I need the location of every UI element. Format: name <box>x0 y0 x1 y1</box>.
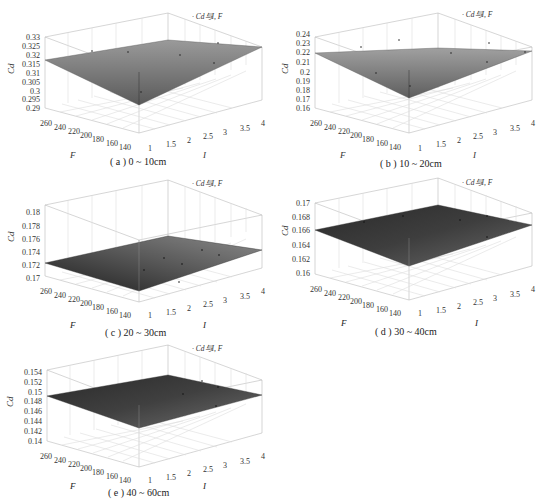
chart-panel-a: 0.33 0.325 0.32 0.315 0.31 0.305 0.3 0.2… <box>0 0 275 160</box>
x-axis-ticks-d: 1 1.5 2 2.5 3 3.5 4 <box>418 285 535 318</box>
z-axis-label-a: Cd <box>6 63 16 74</box>
surface-plot-e: 0.154 0.152 0.15 0.148 0.146 0.144 0.142… <box>0 335 275 485</box>
svg-text:200: 200 <box>80 131 92 140</box>
svg-text:200: 200 <box>350 297 362 306</box>
svg-text:3: 3 <box>493 128 497 137</box>
surface-plot-c: 0.18 0.178 0.176 0.174 0.172 0.17 Cd 260… <box>0 170 275 320</box>
svg-text:0.17: 0.17 <box>26 274 40 283</box>
svg-text:0.17: 0.17 <box>296 95 310 104</box>
svg-text:140: 140 <box>389 143 401 152</box>
surface-d <box>315 205 532 266</box>
svg-text:180: 180 <box>362 301 374 310</box>
svg-text:2.5: 2.5 <box>473 132 483 141</box>
chart-panel-e: 0.154 0.152 0.15 0.148 0.146 0.144 0.142… <box>0 335 275 485</box>
y-axis-label-c: F <box>70 320 76 330</box>
legend-a: · Cd与I, F <box>192 12 223 21</box>
svg-text:3.5: 3.5 <box>240 124 250 133</box>
svg-text:2.5: 2.5 <box>203 465 213 474</box>
svg-text:0.142: 0.142 <box>24 427 42 436</box>
x-axis-label-b: I <box>472 150 477 160</box>
svg-text:2: 2 <box>187 304 191 313</box>
z-axis-label-b: Cd <box>280 63 290 74</box>
svg-text:240: 240 <box>54 291 66 300</box>
legend-c: · Cd与I, F <box>192 179 223 188</box>
z-axis-label-c: Cd <box>6 231 16 242</box>
svg-text:0.305: 0.305 <box>22 78 40 87</box>
z-axis-label-d: Cd <box>280 225 290 236</box>
svg-text:0.172: 0.172 <box>22 261 40 270</box>
svg-text:220: 220 <box>68 295 80 304</box>
svg-text:0.18: 0.18 <box>26 208 40 217</box>
chart-panel-d: 0.17 0.168 0.166 0.164 0.162 0.16 Cd 260… <box>275 170 545 320</box>
svg-text:1.5: 1.5 <box>166 140 176 149</box>
svg-text:0.164: 0.164 <box>292 241 310 250</box>
svg-text:0.17: 0.17 <box>296 199 310 208</box>
x-axis-ticks-c: 1 1.5 2 2.5 3 3.5 4 <box>148 287 265 320</box>
svg-text:1: 1 <box>418 309 422 318</box>
svg-text:200: 200 <box>350 131 362 140</box>
svg-text:4: 4 <box>261 287 265 296</box>
svg-text:4: 4 <box>531 119 535 128</box>
svg-text:220: 220 <box>338 127 350 136</box>
caption-d: ( d ) 30 ~ 40cm <box>375 326 437 337</box>
x-axis-label-e: I <box>203 481 206 491</box>
chart-panel-c: 0.18 0.178 0.176 0.174 0.172 0.17 Cd 260… <box>0 170 275 320</box>
svg-text:2: 2 <box>457 302 461 311</box>
svg-text:1.5: 1.5 <box>436 140 446 149</box>
x-axis-label-c: I <box>203 320 206 330</box>
svg-text:0.21: 0.21 <box>296 58 310 67</box>
svg-text:180: 180 <box>92 303 104 312</box>
y-axis-ticks-c: 260 240 220 200 180 160 140 <box>40 287 131 320</box>
svg-text:0.152: 0.152 <box>24 378 42 387</box>
svg-text:0.174: 0.174 <box>22 248 40 257</box>
x-axis-ticks-e: 1 1.5 2 2.5 3 3.5 4 <box>148 452 265 485</box>
surface-plot-a: 0.33 0.325 0.32 0.315 0.31 0.305 0.3 0.2… <box>0 0 275 160</box>
svg-text:1.5: 1.5 <box>166 308 176 317</box>
svg-text:140: 140 <box>389 309 401 318</box>
svg-text:160: 160 <box>106 139 118 148</box>
svg-text:2.5: 2.5 <box>203 300 213 309</box>
svg-text:4: 4 <box>531 285 535 294</box>
svg-text:1: 1 <box>148 476 152 485</box>
svg-text:240: 240 <box>54 123 66 132</box>
svg-text:1: 1 <box>418 144 422 153</box>
chart-panel-b: 0.24 0.23 0.22 0.21 0.2 0.19 0.18 0.17 0… <box>275 0 545 160</box>
z-axis-ticks-b: 0.24 0.23 0.22 0.21 0.2 0.19 0.18 0.17 0… <box>296 30 310 113</box>
y-axis-label-a: F <box>69 150 76 160</box>
svg-text:0.16: 0.16 <box>296 104 310 113</box>
svg-text:0.2: 0.2 <box>300 68 310 77</box>
surface-plot-b: 0.24 0.23 0.22 0.21 0.2 0.19 0.18 0.17 0… <box>275 0 545 160</box>
svg-text:180: 180 <box>92 468 104 477</box>
caption-a: ( a ) 0 ~ 10cm <box>110 156 166 167</box>
surface-a <box>45 40 262 105</box>
svg-text:140: 140 <box>119 311 131 320</box>
y-axis-ticks-a: 260 240 220 200 180 160 140 <box>40 119 131 152</box>
svg-text:0.166: 0.166 <box>292 226 310 235</box>
svg-text:180: 180 <box>362 135 374 144</box>
svg-text:3: 3 <box>223 128 227 137</box>
svg-text:1.5: 1.5 <box>166 473 176 482</box>
svg-text:2: 2 <box>187 136 191 145</box>
svg-text:0.168: 0.168 <box>292 213 310 222</box>
svg-text:3.5: 3.5 <box>510 290 520 299</box>
svg-text:0.14: 0.14 <box>28 437 42 446</box>
svg-text:160: 160 <box>106 307 118 316</box>
svg-text:3.5: 3.5 <box>240 292 250 301</box>
svg-text:3.5: 3.5 <box>240 457 250 466</box>
svg-text:240: 240 <box>324 289 336 298</box>
svg-text:240: 240 <box>324 123 336 132</box>
svg-text:220: 220 <box>338 293 350 302</box>
svg-text:260: 260 <box>310 285 322 294</box>
z-axis-ticks-e: 0.154 0.152 0.15 0.148 0.146 0.144 0.142… <box>24 368 42 446</box>
surface-plot-d: 0.17 0.168 0.166 0.164 0.162 0.16 Cd 260… <box>275 170 545 320</box>
svg-text:2.5: 2.5 <box>203 132 213 141</box>
y-axis-ticks-b: 260 240 220 200 180 160 140 <box>310 119 401 152</box>
svg-text:3: 3 <box>223 296 227 305</box>
legend-e: · Cd与I, F <box>192 344 223 353</box>
svg-text:0.148: 0.148 <box>24 397 42 406</box>
svg-text:240: 240 <box>54 456 66 465</box>
caption-b: ( b ) 10 ~ 20cm <box>380 158 442 169</box>
z-axis-ticks-c: 0.18 0.178 0.176 0.174 0.172 0.17 <box>22 208 40 283</box>
svg-text:2: 2 <box>187 469 191 478</box>
z-axis-label-e: Cd <box>5 396 15 407</box>
